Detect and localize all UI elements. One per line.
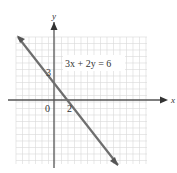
line-arrow-end-icon: [110, 157, 118, 166]
line-arrow-start-icon: [17, 36, 25, 44]
origin-label: 0: [45, 103, 50, 114]
x-axis-arrow-icon: [160, 97, 168, 104]
y-intercept-label: 3: [46, 67, 51, 78]
x-intercept-label: 2: [67, 103, 72, 114]
y-axis-label: y: [51, 11, 56, 21]
y-axis-arrow-icon: [51, 22, 58, 30]
chart-canvas: x y 0 2 3 3x + 2y = 6: [0, 0, 177, 173]
axes: [8, 22, 168, 168]
x-axis-label: x: [170, 95, 175, 105]
equation-label: 3x + 2y = 6: [65, 58, 111, 69]
